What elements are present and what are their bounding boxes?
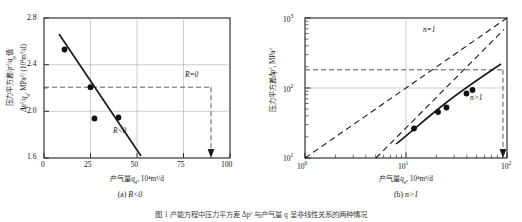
panel-a-plot bbox=[0, 0, 261, 200]
figure-caption: 图 1 产能方程中压力平方差 Δp² 与产气量 q 呈非线性关系的两种情况 bbox=[0, 208, 522, 219]
panel-a-ytick-label: 2.0 bbox=[27, 106, 37, 115]
panel-a-ytick-label: 2.4 bbox=[27, 59, 37, 68]
panel-b-annotation-n-greater-one: n>1 bbox=[470, 93, 482, 102]
panel-a-data-point bbox=[116, 115, 122, 121]
panel-a-data-point bbox=[62, 47, 68, 53]
panel-b-data-point bbox=[464, 91, 470, 97]
figure-container: 压力平方差/p2/qg值 Δp2/qg, MPa2/ (104m3/d) bbox=[0, 0, 522, 222]
panel-b-data-point bbox=[435, 109, 441, 115]
panel-a-data-point bbox=[88, 84, 94, 90]
panel-b-ytick-label: 101 bbox=[283, 152, 293, 163]
panel-b-ytick-label: 102 bbox=[283, 83, 293, 94]
panel-a-xtick-label: 100 bbox=[221, 160, 232, 169]
panel-b-xtick-label: 101 bbox=[398, 160, 408, 171]
panel-a-xtick-label: 25 bbox=[84, 160, 92, 169]
panel-a-data-point bbox=[92, 116, 98, 122]
panel-a-annotation-r-negative: R<0 bbox=[113, 126, 126, 135]
panel-a-x-axis-title: 产气量qg, 10⁴m³/d bbox=[57, 173, 217, 184]
panel-a-xtick-label: 75 bbox=[177, 160, 185, 169]
panel-b-xtick-label: 100 bbox=[297, 160, 307, 171]
panel-b-subcaption: (b) n>1 bbox=[336, 190, 476, 199]
panel-b-annotation-n-equals-one: n=1 bbox=[423, 25, 435, 34]
panel-a-xtick-label: 0 bbox=[41, 160, 45, 169]
panel-b-ytick-label: 103 bbox=[283, 13, 293, 24]
chart-panel-b: 压力平方差Δp2, MPa2 bbox=[261, 0, 522, 200]
panel-b-data-point bbox=[411, 126, 417, 132]
chart-panel-a: 压力平方差/p2/qg值 Δp2/qg, MPa2/ (104m3/d) bbox=[0, 0, 261, 200]
panel-b-xtick-label: 102 bbox=[501, 160, 511, 171]
panel-a-xtick-label: 50 bbox=[131, 160, 139, 169]
panel-b-data-point bbox=[444, 105, 450, 111]
panel-a-ytick-label: 2.8 bbox=[27, 13, 37, 22]
panel-a-annotation-r-zero: R=0 bbox=[185, 70, 198, 79]
panel-b-x-axis-title: 产气量qg, 10⁴m³/d bbox=[326, 173, 486, 184]
panel-a-ytick-label: 1.6 bbox=[27, 152, 37, 161]
panel-a-subcaption: (a) B<0 bbox=[60, 190, 200, 199]
